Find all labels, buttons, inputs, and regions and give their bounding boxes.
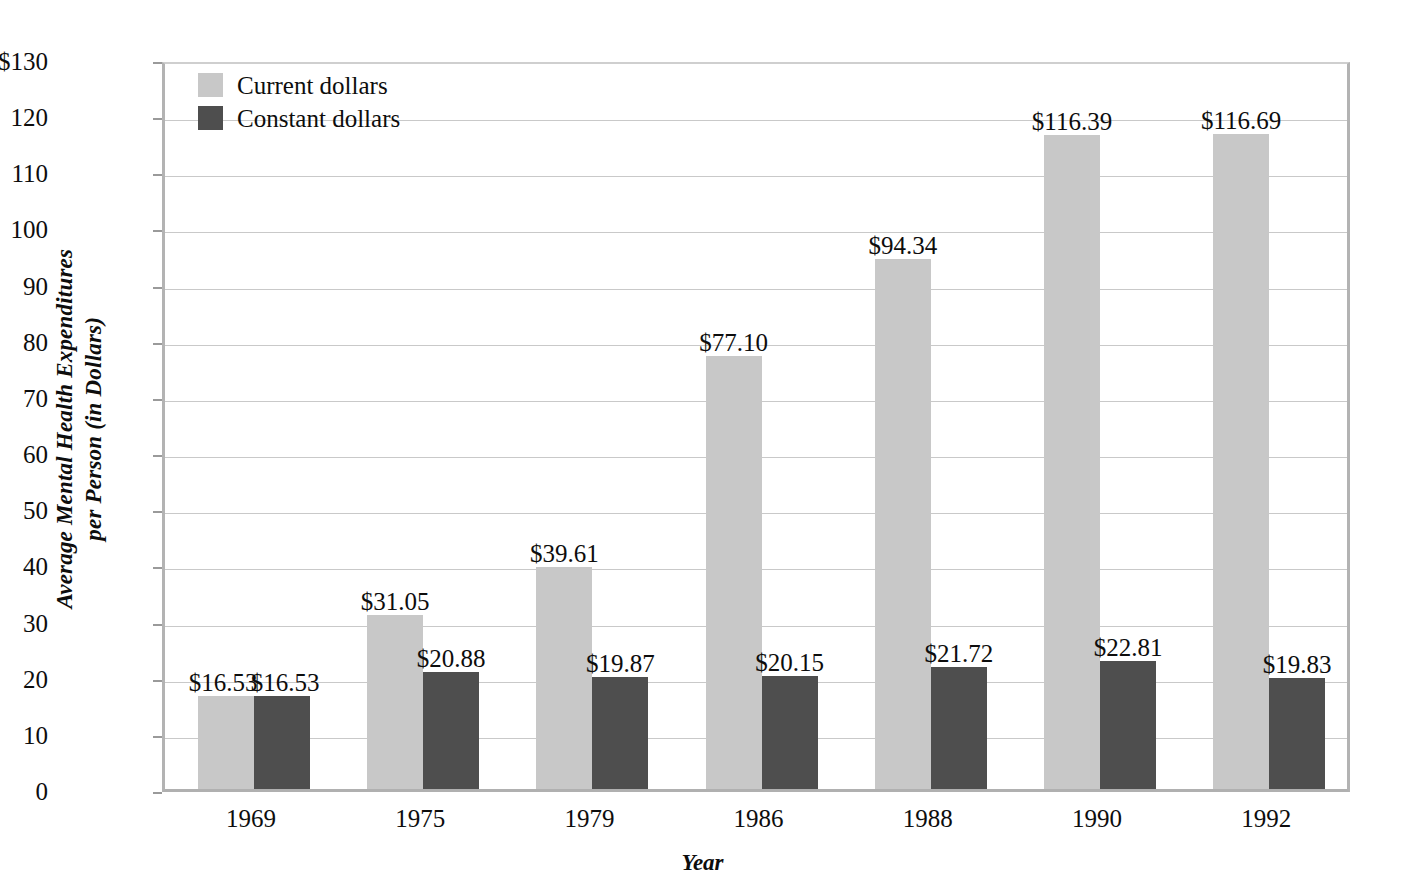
y-tick-mark	[153, 343, 162, 345]
y-tick-label: 120	[0, 105, 48, 130]
plot-area: $16.53$16.53$31.05$20.88$39.61$19.87$77.…	[162, 62, 1350, 792]
y-tick-mark	[153, 399, 162, 401]
y-tick-mark	[153, 455, 162, 457]
y-tick-mark	[153, 230, 162, 232]
y-axis-title-line-1: Average Mental Health Expenditures	[51, 169, 80, 689]
value-label-constant-1986: $20.15	[705, 650, 875, 675]
y-axis-title: Average Mental Health Expenditures per P…	[51, 169, 109, 689]
legend-label-current-dollars: Current dollars	[237, 73, 388, 98]
bar-constant-1988	[931, 667, 987, 789]
y-tick-label: 40	[0, 554, 48, 579]
bar-current-1986	[706, 356, 762, 789]
bar-constant-1992	[1269, 678, 1325, 789]
y-tick-label: 30	[0, 611, 48, 636]
value-label-current-1986: $77.10	[649, 330, 819, 355]
y-tick-mark	[153, 736, 162, 738]
bar-current-1988	[875, 259, 931, 789]
x-tick-label-1975: 1975	[335, 806, 505, 831]
bar-current-1979	[536, 567, 592, 789]
chart-legend: Current dollars Constant dollars	[198, 70, 400, 133]
y-tick-mark	[153, 174, 162, 176]
y-tick-mark	[153, 118, 162, 120]
value-label-constant-1979: $19.87	[535, 651, 705, 676]
y-tick-mark	[153, 624, 162, 626]
y-tick-label: 80	[0, 330, 48, 355]
y-tick-label: 110	[0, 161, 48, 186]
value-label-current-1979: $39.61	[479, 541, 649, 566]
y-tick-mark	[153, 792, 162, 794]
value-label-constant-1975: $20.88	[366, 646, 536, 671]
value-label-current-1990: $116.39	[987, 109, 1157, 134]
bar-constant-1979	[592, 677, 648, 789]
y-tick-mark	[153, 62, 162, 64]
y-tick-label: 50	[0, 498, 48, 523]
y-tick-label: 70	[0, 386, 48, 411]
y-tick-mark	[153, 287, 162, 289]
legend-swatch-current-dollars	[198, 73, 223, 97]
legend-swatch-constant-dollars	[198, 106, 223, 130]
x-tick-label-1969: 1969	[166, 806, 336, 831]
value-label-current-1992: $116.69	[1156, 108, 1326, 133]
x-tick-label-1979: 1979	[504, 806, 674, 831]
x-axis-title: Year	[0, 850, 1405, 876]
value-label-current-1988: $94.34	[818, 233, 988, 258]
value-label-constant-1992: $19.83	[1212, 652, 1382, 677]
bar-chart: Average Mental Health Expenditures per P…	[0, 0, 1405, 893]
y-tick-label: 10	[0, 723, 48, 748]
legend-item-constant-dollars: Constant dollars	[198, 103, 400, 133]
y-tick-label: 20	[0, 667, 48, 692]
bar-constant-1975	[423, 672, 479, 789]
bar-current-1969	[198, 696, 254, 789]
y-tick-label: 90	[0, 274, 48, 299]
y-tick-label: 60	[0, 442, 48, 467]
y-tick-label: 0	[0, 779, 48, 804]
x-tick-label-1986: 1986	[674, 806, 844, 831]
bar-current-1975	[367, 615, 423, 789]
y-tick-mark	[153, 511, 162, 513]
legend-item-current-dollars: Current dollars	[198, 70, 400, 100]
bar-current-1992	[1213, 134, 1269, 789]
y-tick-label: 100	[0, 217, 48, 242]
value-label-constant-1990: $22.81	[1043, 635, 1213, 660]
bar-constant-1990	[1100, 661, 1156, 789]
bar-constant-1986	[762, 676, 818, 789]
legend-label-constant-dollars: Constant dollars	[237, 106, 400, 131]
x-tick-label-1988: 1988	[843, 806, 1013, 831]
bars-layer: $16.53$16.53$31.05$20.88$39.61$19.87$77.…	[165, 64, 1347, 789]
value-label-current-1975: $31.05	[310, 589, 480, 614]
value-label-constant-1969: $16.53	[200, 670, 370, 695]
value-label-constant-1988: $21.72	[874, 641, 1044, 666]
x-tick-label-1990: 1990	[1012, 806, 1182, 831]
bar-constant-1969	[254, 696, 310, 789]
bar-current-1990	[1044, 135, 1100, 789]
x-tick-label-1992: 1992	[1181, 806, 1351, 831]
y-tick-label: $130	[0, 49, 48, 74]
y-tick-mark	[153, 567, 162, 569]
y-axis-title-line-2: per Person (in Dollars)	[80, 169, 109, 689]
